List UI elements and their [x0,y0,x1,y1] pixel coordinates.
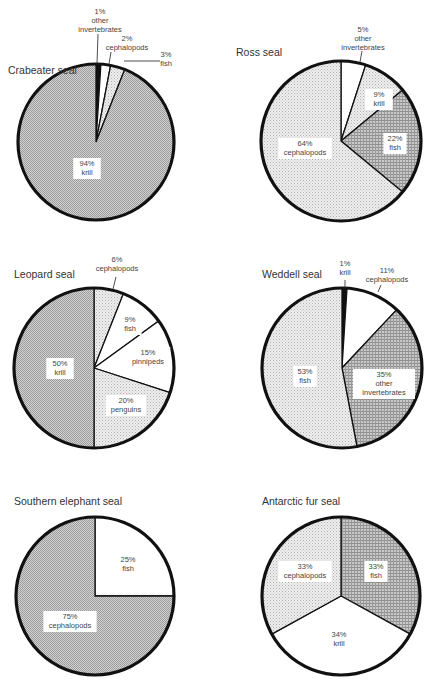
pie-crabeater-seal: Crabeater seal1%otherinvertebrates2%ceph… [8,7,174,220]
svg-text:invertebrates: invertebrates [78,25,122,34]
svg-text:penguins: penguins [111,405,142,414]
svg-text:cephalopods: cephalopods [96,264,139,273]
slice-label-fish: 25%fish [116,554,139,575]
svg-text:11%: 11% [380,266,395,275]
svg-text:75%: 75% [62,612,77,621]
slice-label-krill: 9%krill [365,89,393,110]
svg-text:fish: fish [370,571,382,580]
svg-text:1%: 1% [340,259,351,268]
svg-text:9%: 9% [125,315,136,324]
leader-line [113,277,116,289]
svg-text:cephalopods: cephalopods [49,621,92,630]
slice-label-fish: 3%fish [160,50,172,68]
pie-southern-elephant-seal: Southern elephant seal25%fish75%cephalop… [14,495,174,675]
svg-text:2%: 2% [122,34,133,43]
slice-label-cephalopods: 2%cephalopods [106,34,149,52]
svg-text:3%: 3% [161,50,172,59]
chart-title: Leopard seal [14,268,75,280]
svg-text:53%: 53% [297,367,312,376]
slice-label-fish: 9%fish [118,314,141,335]
svg-text:cephalopods: cephalopods [106,43,149,52]
slice-label-cephalopods: 6%cephalopods [96,255,139,273]
svg-text:6%: 6% [112,255,123,264]
svg-text:20%: 20% [118,396,133,405]
slice-label-krill: 34%krill [325,629,353,650]
leader-line [97,34,98,64]
pie-ross-seal: Ross seal5%otherinvertebrates9%krill22%f… [236,25,421,221]
svg-text:35%: 35% [376,370,391,379]
pie-antarctic-fur-seal: Antarctic fur seal33%fish34%krill33%ceph… [262,495,420,675]
svg-text:5%: 5% [358,25,369,34]
svg-text:cephalopods: cephalopods [284,571,327,580]
svg-text:33%: 33% [368,562,383,571]
svg-text:33%: 33% [297,562,312,571]
svg-text:34%: 34% [331,630,346,639]
slice-label-other-invertebrates: 35%otherinvertebrates [353,369,415,399]
leader-line [378,285,381,292]
svg-text:9%: 9% [374,90,385,99]
leader-line [109,52,111,64]
svg-text:fish: fish [299,376,311,385]
svg-text:pinnipeds: pinnipeds [132,357,164,366]
svg-text:50%: 50% [52,359,67,368]
svg-text:krill: krill [333,639,345,648]
svg-text:fish: fish [124,324,136,333]
svg-text:fish: fish [122,564,134,573]
chart-title: Weddell seal [262,268,322,280]
slice-label-krill: 1%krill [339,259,351,277]
pie-leopard-seal: Leopard seal6%cephalopods9%fish15%pinnip… [14,255,174,448]
svg-text:krill: krill [81,168,93,177]
slice-label-fish: 33%fish [364,561,387,582]
pie-weddell-seal: Weddell seal1%krill11%cephalopods35%othe… [262,259,422,448]
svg-text:cephalopods: cephalopods [366,275,409,284]
svg-text:64%: 64% [297,139,312,148]
svg-text:15%: 15% [140,348,155,357]
svg-text:25%: 25% [120,555,135,564]
leader-line [360,51,362,62]
chart-title: Ross seal [236,46,282,58]
slice-label-cephalopods: 33%cephalopods [278,561,331,582]
slice-label-pinnipeds: 15%pinnipeds [126,347,171,368]
slice-label-cephalopods: 75%cephalopods [43,611,96,632]
chart-title: Crabeater seal [8,64,77,76]
svg-text:cephalopods: cephalopods [284,148,327,157]
svg-text:other: other [354,34,372,43]
svg-text:fish: fish [389,143,401,152]
slice-label-penguins: 20%penguins [106,395,146,416]
slice-label-cephalopods: 64%cephalopods [278,138,331,159]
slice-label-fish: 22%fish [383,133,406,154]
seal-diet-pie-charts: Crabeater seal1%otherinvertebrates2%ceph… [0,0,429,684]
svg-text:invertebrates: invertebrates [362,388,406,397]
slice-label-krill: 94%krill [73,158,101,179]
chart-title: Southern elephant seal [14,495,122,507]
svg-text:krill: krill [373,99,385,108]
slice-label-fish: 53%fish [293,366,316,387]
svg-text:invertebrates: invertebrates [341,43,385,52]
svg-text:94%: 94% [79,159,94,168]
svg-text:fish: fish [160,59,172,68]
svg-text:other: other [91,16,109,25]
chart-title: Antarctic fur seal [262,495,340,507]
slice-label-cephalopods: 11%cephalopods [366,266,409,284]
slice-label-other-invertebrates: 1%otherinvertebrates [78,7,122,34]
svg-text:1%: 1% [95,7,106,16]
svg-text:krill: krill [54,368,66,377]
slice-label-krill: 50%krill [46,358,74,379]
svg-text:other: other [375,379,393,388]
svg-text:krill: krill [339,268,351,277]
svg-text:22%: 22% [387,134,402,143]
slice-label-other-invertebrates: 5%otherinvertebrates [341,25,385,52]
